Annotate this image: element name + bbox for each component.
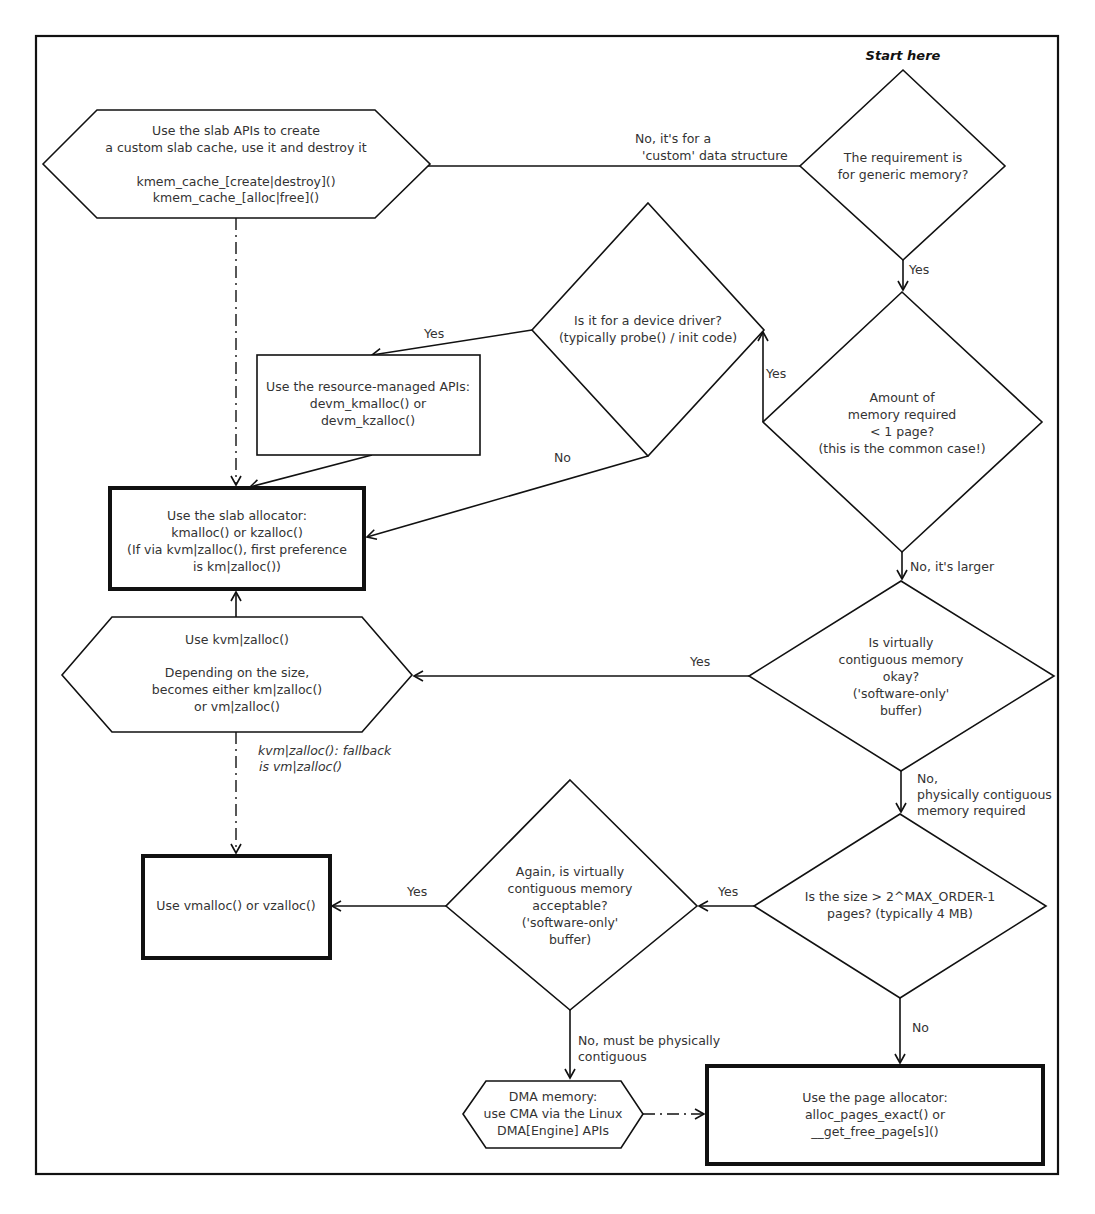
edge-driver-yes [372, 330, 532, 355]
label-again-no: No, must be physically [578, 1033, 721, 1048]
node-text: ('software-only' [522, 915, 619, 930]
node-text: use CMA via the Linux [484, 1106, 623, 1121]
node-text: (If via kvm|zalloc(), first preference [127, 542, 347, 557]
node-text: memory required [848, 407, 957, 422]
label-amount-yes: Yes [765, 366, 786, 381]
node-text: alloc_pages_exact() or [805, 1107, 946, 1122]
node-text: kmem_cache_[alloc|free]() [153, 190, 319, 205]
label-again-no: contiguous [578, 1049, 647, 1064]
dma-memory-node: DMA memory: use CMA via the Linux DMA[En… [463, 1081, 643, 1148]
label-custom-no: 'custom' data structure [642, 148, 788, 163]
label-driver-yes: Yes [423, 326, 444, 341]
node-text: becomes either km|zalloc() [152, 682, 322, 697]
label-custom-no: No, it's for a [635, 131, 711, 146]
node-text: __get_free_page[s]() [810, 1124, 938, 1139]
label-virtual-yes: Yes [689, 654, 710, 669]
node-text: Again, is virtually [516, 864, 625, 879]
node-text: okay? [883, 669, 919, 684]
virtually-contiguous-decision: Is virtually contiguous memory okay? ('s… [749, 581, 1054, 771]
node-text: contiguous memory [508, 881, 634, 896]
node-text: The requirement is [843, 150, 962, 165]
start-here-label: Start here [866, 48, 941, 63]
label-size-no: No [912, 1020, 929, 1035]
node-text: Use the resource-managed APIs: [266, 379, 470, 394]
kvm-zalloc-node: Use kvm|zalloc() Depending on the size, … [62, 617, 412, 732]
vmalloc-node: Use vmalloc() or vzalloc() [143, 856, 330, 958]
node-text: or vm|zalloc() [194, 699, 280, 714]
node-text: acceptable? [532, 898, 607, 913]
node-text: Is it for a device driver? [574, 313, 722, 328]
start-decision: The requirement is for generic memory? [800, 70, 1005, 260]
label-kvm-fallback: is vm|zalloc() [259, 759, 342, 774]
node-text: kmalloc() or kzalloc() [171, 525, 303, 540]
label-kvm-fallback: kvm|zalloc(): fallback [258, 743, 392, 758]
node-text: contiguous memory [839, 652, 965, 667]
node-text: kmem_cache_[create|destroy]() [136, 174, 335, 189]
label-virtual-no: No, [917, 771, 938, 786]
amount-decision: Amount of memory required < 1 page? (thi… [763, 292, 1042, 552]
node-text: Use the slab APIs to create [152, 123, 320, 138]
node-text: Use the page allocator: [802, 1090, 947, 1105]
label-again-yes: Yes [406, 884, 427, 899]
node-text: Is the size > 2^MAX_ORDER-1 [805, 889, 996, 904]
node-text: devm_kzalloc() [321, 413, 415, 428]
node-text: for generic memory? [838, 167, 969, 182]
node-text: Is virtually [868, 635, 934, 650]
node-text: Use the slab allocator: [167, 508, 307, 523]
node-text: is km|zalloc()) [193, 559, 281, 574]
size-decision: Is the size > 2^MAX_ORDER-1 pages? (typi… [754, 814, 1046, 998]
page-allocator-node: Use the page allocator: alloc_pages_exac… [707, 1066, 1043, 1164]
node-text: (typically probe() / init code) [559, 330, 737, 345]
node-text: a custom slab cache, use it and destroy … [105, 140, 366, 155]
node-text: Amount of [869, 390, 935, 405]
slab-allocator-node: Use the slab allocator: kmalloc() or kza… [110, 488, 364, 589]
node-text: buffer) [880, 703, 922, 718]
label-amount-no: No, it's larger [910, 559, 995, 574]
device-driver-decision: Is it for a device driver? (typically pr… [532, 203, 764, 456]
edge-resource-to-slab [250, 455, 372, 487]
node-text: buffer) [549, 932, 591, 947]
node-text: < 1 page? [870, 424, 934, 439]
node-text: DMA[Engine] APIs [497, 1123, 609, 1138]
flowchart: Start here The requirement is for generi… [0, 0, 1095, 1214]
label-virtual-no: memory required [917, 803, 1026, 818]
node-text: DMA memory: [509, 1089, 597, 1104]
label-virtual-no: physically contiguous [917, 787, 1052, 802]
resource-managed-node: Use the resource-managed APIs: devm_kmal… [257, 355, 480, 455]
node-text: (this is the common case!) [818, 441, 985, 456]
node-text: Depending on the size, [165, 665, 309, 680]
edge-driver-no [367, 456, 648, 537]
node-text: Use vmalloc() or vzalloc() [156, 898, 315, 913]
label-size-yes: Yes [717, 884, 738, 899]
node-text: devm_kmalloc() or [310, 396, 427, 411]
again-decision: Again, is virtually contiguous memory ac… [446, 780, 697, 1010]
label-driver-no: No [554, 450, 571, 465]
node-text: Use kvm|zalloc() [185, 632, 289, 647]
label-generic-yes: Yes [908, 262, 929, 277]
node-text: pages? (typically 4 MB) [827, 906, 973, 921]
node-text: ('software-only' [853, 686, 950, 701]
slab-cache-node: Use the slab APIs to create a custom sla… [43, 110, 430, 218]
